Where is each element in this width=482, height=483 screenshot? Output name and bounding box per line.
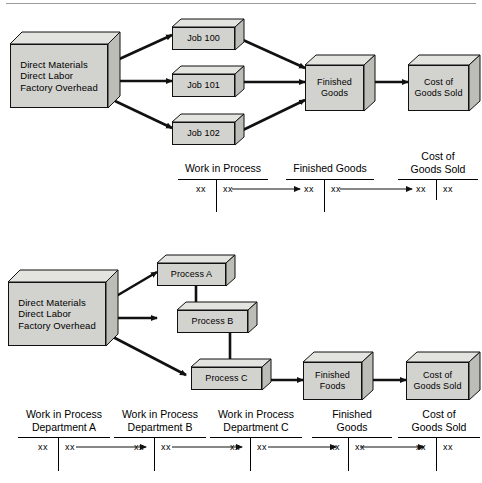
t-account-transfer-arrows-bottom <box>0 0 482 483</box>
diagram-canvas: Direct Materials Direct Labor Factory Ov… <box>0 0 482 483</box>
